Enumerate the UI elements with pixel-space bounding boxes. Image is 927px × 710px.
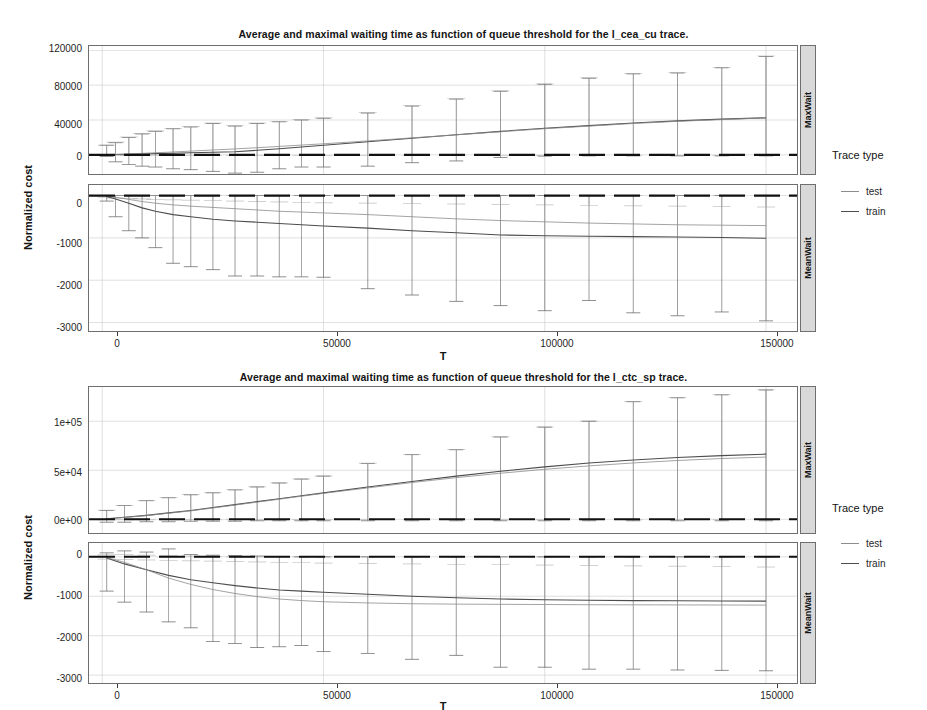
ytick: 0e+00	[54, 515, 82, 526]
legend-line-test-icon	[840, 537, 860, 549]
strip-label: MeanWait	[803, 592, 813, 634]
legend-line-train-icon	[840, 557, 860, 569]
legend-label: test	[866, 186, 882, 197]
figure-2-title: Average and maximal waiting time as func…	[0, 371, 927, 383]
series-line-train	[107, 558, 766, 601]
plot-area	[89, 387, 797, 533]
strip-label: MaxWait	[803, 92, 813, 128]
xtick-mark	[337, 332, 338, 336]
ytick: 80000	[54, 81, 82, 92]
figure-1-y-axis-label: Normalized cost	[22, 165, 34, 250]
strip-label: MeanWait	[803, 237, 813, 279]
figure-2-legend-title: Trace type	[832, 502, 884, 514]
xtick-mark	[777, 684, 778, 688]
ytick: 40000	[54, 119, 82, 130]
xtick-mark	[777, 332, 778, 336]
plot-area	[89, 185, 797, 331]
series-line-train	[107, 196, 766, 238]
xtick: 50000	[323, 338, 351, 349]
strip-label: MaxWait	[803, 442, 813, 478]
ytick: -3000	[56, 673, 82, 684]
xtick: 100000	[540, 338, 573, 349]
figure-1-panel-meanwait	[88, 184, 798, 332]
figure-cea-cu: Average and maximal waiting time as func…	[0, 0, 927, 360]
ytick: -2000	[56, 280, 82, 291]
xtick-mark	[117, 684, 118, 688]
figure-ctc-sp: Average and maximal waiting time as func…	[0, 360, 927, 710]
figure-2-legend-item-train[interactable]: train	[840, 557, 885, 569]
xtick-mark	[557, 332, 558, 336]
figure-1-legend-item-train[interactable]: train	[840, 205, 885, 217]
ytick: -1000	[56, 590, 82, 601]
figure-2-y-axis-label: Normalized cost	[22, 515, 34, 600]
legend-label: train	[866, 558, 885, 569]
figure-2-x-axis-label: T	[88, 700, 798, 710]
ytick: 5e+04	[54, 467, 82, 478]
ytick: -2000	[56, 632, 82, 643]
figure-2-strip-maxwait: MaxWait	[800, 386, 816, 534]
legend-label: train	[866, 206, 885, 217]
figure-2-legend-item-test[interactable]: test	[840, 537, 882, 549]
legend-line-test-icon	[840, 185, 860, 197]
xtick-mark	[557, 684, 558, 688]
ytick: 0	[76, 549, 82, 560]
series-line-test	[107, 457, 766, 519]
ytick: 1e+05	[54, 417, 82, 428]
legend-label: test	[866, 538, 882, 549]
xtick-mark	[337, 684, 338, 688]
xtick: 150000	[760, 338, 793, 349]
figure-2-strip-meanwait: MeanWait	[800, 542, 816, 684]
ytick: -3000	[56, 322, 82, 333]
figure-1-title: Average and maximal waiting time as func…	[0, 28, 927, 40]
ytick: 120000	[49, 43, 82, 54]
plot-area	[89, 543, 797, 683]
ytick: -1000	[56, 238, 82, 249]
figure-1-strip-maxwait: MaxWait	[800, 45, 816, 175]
figure-2-panel-meanwait	[88, 542, 798, 684]
xtick: 0	[114, 338, 120, 349]
ytick: 0	[76, 198, 82, 209]
figure-2-panel-maxwait	[88, 386, 798, 534]
legend-line-train-icon	[840, 205, 860, 217]
series-line-test	[107, 118, 766, 155]
xtick-mark	[117, 332, 118, 336]
figure-1-legend-title: Trace type	[832, 149, 884, 161]
ytick: 0	[76, 151, 82, 162]
plot-area	[89, 46, 797, 174]
figure-1-strip-meanwait: MeanWait	[800, 184, 816, 332]
figure-1-panel-maxwait	[88, 45, 798, 175]
figure-1-legend-item-test[interactable]: test	[840, 185, 882, 197]
